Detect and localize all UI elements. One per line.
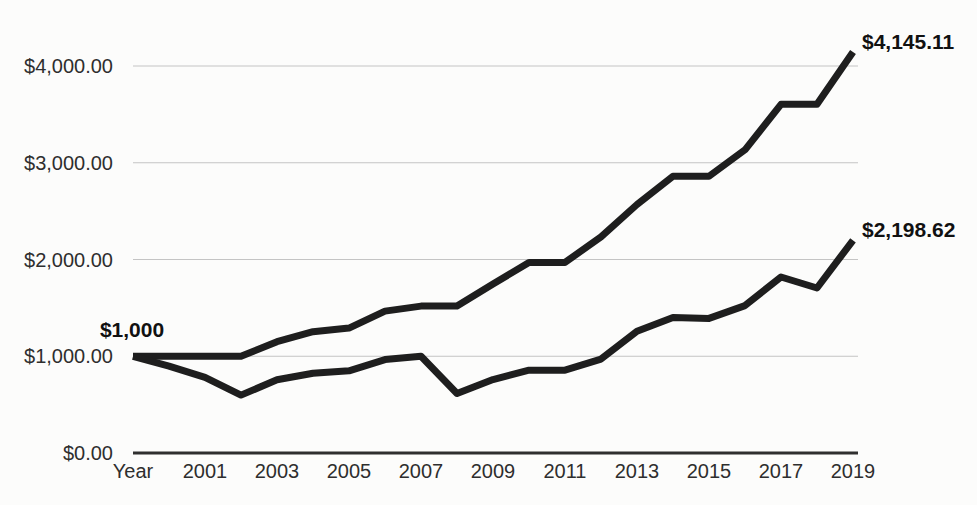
x-axis-tick-label: 2019 [831, 460, 876, 482]
lower-index-line [133, 240, 853, 395]
x-axis-tick-label: 2011 [543, 460, 586, 482]
x-axis-title-label: Year [113, 460, 154, 482]
x-axis-tick-label: 2013 [615, 460, 660, 482]
lower-index-line-end-label: $2,198.62 [862, 218, 955, 241]
x-axis-tick-label: 2003 [255, 460, 300, 482]
y-axis-tick-label: $4,000.00 [24, 55, 113, 77]
y-axis-tick-label: $3,000.00 [24, 152, 113, 174]
y-axis-tick-label: $0.00 [63, 442, 113, 464]
x-axis-tick-label: 2007 [399, 460, 444, 482]
upper-growth-line [133, 52, 853, 356]
upper-growth-line-end-label: $4,145.11 [862, 30, 955, 53]
y-axis-tick-label: $1,000.00 [24, 345, 113, 367]
x-axis-tick-label: 2009 [471, 460, 516, 482]
x-axis-tick-label: 2015 [687, 460, 732, 482]
x-axis-tick-label: 2001 [183, 460, 228, 482]
chart-canvas: $0.00$1,000.00$2,000.00$3,000.00$4,000.0… [0, 0, 977, 505]
y-axis-tick-label: $2,000.00 [24, 249, 113, 271]
x-axis-tick-label: 2017 [759, 460, 804, 482]
x-axis-tick-label: 2005 [327, 460, 372, 482]
investment-growth-line-chart: $0.00$1,000.00$2,000.00$3,000.00$4,000.0… [0, 0, 977, 505]
start-value-label: $1,000 [100, 318, 164, 341]
